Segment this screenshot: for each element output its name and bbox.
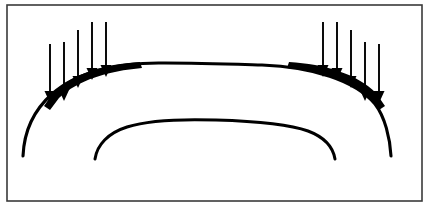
- left-arrow-1: [45, 44, 56, 103]
- left-arrow-2: [59, 42, 70, 101]
- inner-shell-curve: [95, 120, 335, 159]
- right-load-group: [318, 22, 385, 103]
- right-arrow-4: [360, 42, 371, 101]
- left-arrow-3: [73, 30, 84, 88]
- right-arrow-5: [374, 44, 385, 103]
- left-arrow-4: [87, 22, 98, 80]
- arch-loading-figure: [0, 0, 430, 210]
- right-arrow-2: [332, 22, 343, 80]
- figure-border: [7, 5, 422, 201]
- right-arrow-3: [346, 30, 357, 88]
- figure-canvas: [0, 0, 430, 210]
